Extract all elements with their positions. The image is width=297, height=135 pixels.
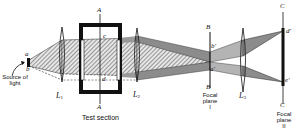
lens-l3-label: L3 [239, 92, 246, 100]
point-d-label: d [102, 76, 106, 83]
lens-l2-label: L2 [133, 91, 140, 99]
point-b-label: b [26, 66, 30, 73]
point-a-label: a [25, 51, 29, 58]
focal-plane-1-bottom-label: B [206, 84, 210, 91]
point-e-prime-label: e' [285, 77, 290, 84]
focal-plane-1-caption: Focal plane I [200, 92, 220, 110]
focal-plane-2-caption: Focal plane II [273, 111, 295, 129]
diagram-drawing [0, 0, 297, 135]
point-c-label: c [103, 33, 106, 40]
point-a-prime-label: a' [210, 66, 215, 73]
plane-a-top-label: A [97, 7, 101, 14]
beam-l3-to-e-prime [243, 66, 283, 82]
lens-l1-label: L1 [56, 92, 63, 100]
test-section-caption: Test section [82, 114, 119, 121]
beam-source-to-l1 [29, 40, 62, 74]
focal-plane-1-top-label: B [206, 24, 210, 31]
plane-a-bottom-label: A [97, 104, 101, 111]
lens-l3 [241, 28, 246, 92]
schlieren-diagram: a b Source of light L1 L2 L3 A A c d Tes… [0, 0, 297, 135]
point-b-prime-label: b' [211, 43, 216, 50]
focal-plane-2-bottom-label: C [280, 102, 285, 109]
beam-collimated [62, 38, 137, 76]
focal-plane-2-top-label: C [280, 3, 285, 10]
beam-l3-to-d-prime [243, 31, 283, 56]
point-d-prime-label: d' [286, 28, 291, 35]
source-of-light-label: Source of light [2, 74, 28, 86]
